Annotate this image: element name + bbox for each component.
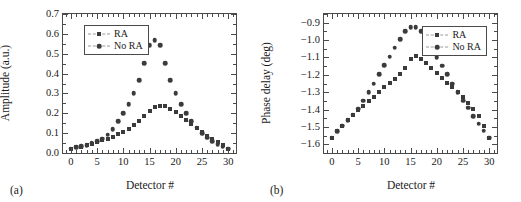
x-minor-tick <box>223 14 224 17</box>
y-tick-label: 0.5 <box>46 48 59 59</box>
x-minor-tick <box>400 150 401 153</box>
data-point <box>471 107 475 111</box>
x-major-tick <box>411 14 412 19</box>
x-major-tick <box>358 14 359 19</box>
data-point <box>158 43 163 48</box>
y-major-tick <box>492 144 497 145</box>
x-minor-tick <box>473 150 474 153</box>
y-minor-tick <box>324 101 327 102</box>
y-major-tick <box>63 14 68 15</box>
x-minor-tick <box>416 150 417 153</box>
data-point <box>127 127 131 131</box>
data-point <box>461 98 466 103</box>
y-minor-tick <box>324 66 327 67</box>
data-point <box>105 132 110 137</box>
y-minor-tick <box>324 118 327 119</box>
data-point <box>340 123 345 128</box>
legend-marker-square-icon <box>426 30 448 40</box>
x-major-tick <box>463 148 464 153</box>
x-minor-tick <box>468 150 469 153</box>
data-point <box>121 130 125 134</box>
legend-label-ra: RA <box>114 29 128 39</box>
data-point <box>95 139 100 144</box>
data-point <box>205 135 210 140</box>
data-point <box>419 57 423 61</box>
data-point <box>111 135 115 139</box>
x-minor-tick <box>212 14 213 17</box>
x-minor-tick <box>165 150 166 153</box>
x-minor-tick <box>218 150 219 153</box>
panel-a-sublabel: (a) <box>10 185 23 197</box>
x-major-tick <box>489 148 490 153</box>
x-major-tick <box>384 148 385 153</box>
y-major-tick <box>492 23 497 24</box>
y-minor-tick <box>494 118 497 119</box>
x-major-tick <box>384 14 385 19</box>
x-minor-tick <box>191 14 192 17</box>
data-point <box>194 125 199 130</box>
panel-a-legend: RA No RA <box>84 25 149 55</box>
x-minor-tick <box>337 14 338 17</box>
y-tick-label: 0.7 <box>46 9 59 20</box>
figure-two-panel-scatter: Amplitude (a.u.) Detector # (a) RA No RA <box>0 0 521 202</box>
x-major-tick <box>228 14 229 19</box>
y-major-tick <box>63 74 68 75</box>
data-point <box>414 54 418 58</box>
y-minor-tick <box>494 84 497 85</box>
data-point <box>131 91 136 96</box>
x-minor-tick <box>447 14 448 17</box>
data-point <box>111 127 116 132</box>
x-minor-tick <box>395 14 396 17</box>
x-major-tick <box>358 148 359 153</box>
x-major-tick <box>411 148 412 153</box>
x-major-tick <box>202 148 203 153</box>
x-tick-label: 5 <box>355 157 360 168</box>
data-point <box>445 72 450 77</box>
legend-label-ra: RA <box>452 30 466 40</box>
data-point <box>482 124 486 128</box>
data-point <box>152 38 157 43</box>
data-point <box>424 61 428 65</box>
x-minor-tick <box>92 14 93 17</box>
data-point <box>392 46 397 51</box>
legend-marker-circle-icon <box>426 42 448 52</box>
data-point <box>345 118 350 123</box>
y-minor-tick <box>233 64 236 65</box>
y-tick-label: −1.5 <box>301 122 320 133</box>
y-minor-tick <box>324 84 327 85</box>
x-minor-tick <box>170 150 171 153</box>
y-minor-tick <box>63 24 66 25</box>
x-minor-tick <box>363 14 364 17</box>
y-minor-tick <box>63 103 66 104</box>
x-minor-tick <box>426 14 427 17</box>
x-minor-tick <box>379 150 380 153</box>
x-minor-tick <box>160 14 161 17</box>
y-tick-label: −1.4 <box>301 104 320 115</box>
data-point <box>413 25 418 30</box>
data-point <box>179 114 183 118</box>
y-tick-label: 0.1 <box>46 128 59 139</box>
y-major-tick <box>492 57 497 58</box>
x-minor-tick <box>431 14 432 17</box>
y-tick-label: −1.3 <box>301 87 320 98</box>
data-point <box>393 77 397 81</box>
x-major-tick <box>176 14 177 19</box>
data-point <box>179 102 184 107</box>
y-tick-label: −1.2 <box>301 70 320 81</box>
x-minor-tick <box>452 14 453 17</box>
data-point <box>126 102 131 107</box>
x-minor-tick <box>129 150 130 153</box>
x-tick-label: 30 <box>484 157 495 168</box>
data-point <box>210 139 215 144</box>
x-minor-tick <box>155 14 156 17</box>
data-point <box>372 81 377 86</box>
y-major-tick <box>63 153 68 154</box>
x-tick-label: 10 <box>118 157 129 168</box>
x-minor-tick <box>170 14 171 17</box>
legend-entry-ra: RA <box>88 28 143 40</box>
y-major-tick <box>324 57 329 58</box>
x-minor-tick <box>374 150 375 153</box>
data-point <box>189 119 194 124</box>
x-minor-tick <box>379 14 380 17</box>
data-point <box>330 135 335 140</box>
